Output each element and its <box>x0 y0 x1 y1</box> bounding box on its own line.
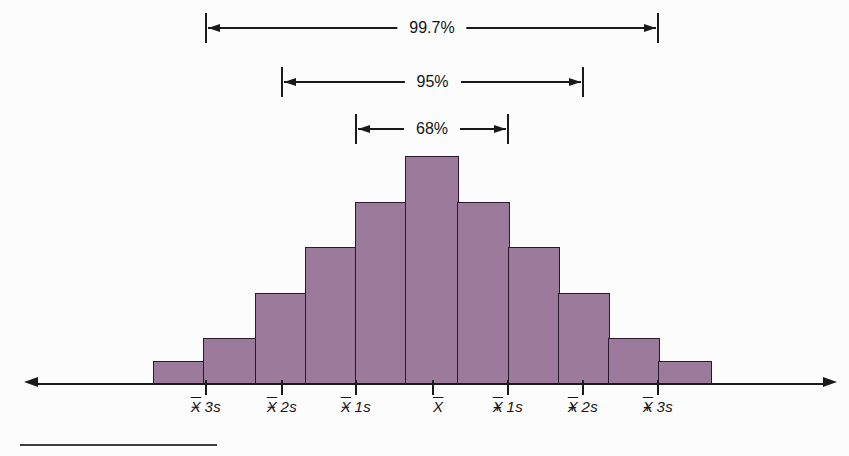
x-axis-tick <box>432 380 434 395</box>
axis-arrowhead-left-icon <box>24 377 38 387</box>
arrowhead-right-icon <box>644 24 656 32</box>
histogram-bar <box>608 338 660 384</box>
x-bar-symbol: X <box>267 398 277 415</box>
annotation-endcap-left <box>205 13 207 43</box>
x-bar-symbol: X <box>433 398 443 415</box>
histogram-bar <box>355 202 407 384</box>
x-axis-tick <box>582 380 584 395</box>
x-bar-symbol: X <box>191 398 201 415</box>
histogram-bar <box>658 361 712 384</box>
coverage-label: 95% <box>404 73 460 91</box>
x-axis-tick <box>355 380 357 395</box>
arrowhead-left-icon <box>208 24 220 32</box>
x-bar-symbol: X <box>643 398 653 415</box>
empirical-rule-histogram-figure: X − 3sX − 2sX − 1sXX + 1sX + 2sX + 3s99.… <box>0 0 849 456</box>
coverage-label: 99.7% <box>397 19 466 37</box>
x-bar-symbol: X <box>493 398 503 415</box>
coverage-label: 68% <box>404 120 460 138</box>
histogram-bar <box>457 202 510 384</box>
x-axis-tick <box>281 380 283 395</box>
x-axis-tick <box>205 380 207 395</box>
x-axis-tick <box>507 380 509 395</box>
axis-arrowhead-right-icon <box>823 377 837 387</box>
histogram-bar <box>305 247 357 384</box>
x-axis-line <box>36 383 825 385</box>
histogram-bar <box>405 156 459 384</box>
x-tick-label: X + 3s <box>610 398 706 415</box>
arrowhead-left-icon <box>358 125 370 133</box>
x-bar-symbol: X <box>568 398 578 415</box>
histogram-bar <box>558 293 610 384</box>
arrowhead-left-icon <box>284 78 296 86</box>
annotation-endcap-right <box>657 13 659 43</box>
x-bar-symbol: X <box>341 398 351 415</box>
annotation-endcap-left <box>355 114 357 144</box>
x-tick-label: X − 1s <box>308 398 404 415</box>
arrowhead-right-icon <box>569 78 581 86</box>
arrowhead-right-icon <box>494 125 506 133</box>
footnote-rule <box>20 444 217 446</box>
annotation-endcap-left <box>281 67 283 97</box>
histogram-bar <box>203 338 257 384</box>
histogram-bar <box>508 247 560 384</box>
histogram-bar <box>255 293 307 384</box>
annotation-endcap-right <box>507 114 509 144</box>
annotation-endcap-right <box>582 67 584 97</box>
histogram-bar <box>153 361 205 384</box>
x-axis-tick <box>657 380 659 395</box>
